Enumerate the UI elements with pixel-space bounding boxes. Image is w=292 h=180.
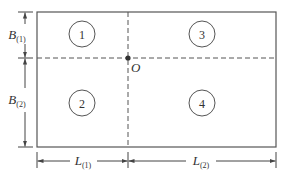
region-3: 3 <box>189 21 215 47</box>
region-2: 2 <box>69 90 95 116</box>
region-2-label: 2 <box>79 97 85 111</box>
region-4: 4 <box>189 90 215 116</box>
footing-diagram: O 1 3 2 4 B( <box>0 0 292 180</box>
dimension-L2-label: L(2) <box>192 153 210 170</box>
dimension-B1-label: B(1) <box>8 27 26 44</box>
region-1: 1 <box>69 21 95 47</box>
horizontal-dimension <box>37 152 276 168</box>
dimension-L1-label: L(1) <box>74 153 92 170</box>
origin-label: O <box>131 60 141 75</box>
origin-point <box>125 55 130 60</box>
region-1-label: 1 <box>79 28 85 42</box>
vertical-dimension <box>18 12 33 147</box>
footing-outline <box>37 12 276 147</box>
dimension-B2-label: B(2) <box>8 92 26 109</box>
region-3-label: 3 <box>199 28 205 42</box>
region-4-label: 4 <box>199 97 205 111</box>
